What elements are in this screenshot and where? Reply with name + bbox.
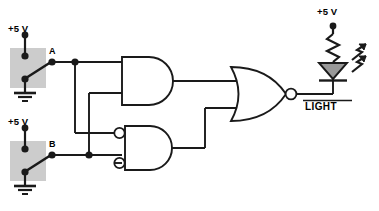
led-supply-label: +5 V [317, 7, 337, 17]
gate-and-inverted-inputs-body[interactable] [125, 126, 172, 170]
switch-b-supply-label: +5 V [8, 117, 28, 127]
switch-a-terminal-top [21, 52, 28, 59]
led-emission-arrows [352, 44, 366, 72]
gate-lower-input-bubble-top [114, 128, 124, 138]
node-b-label: B [49, 140, 56, 149]
resistor-symbol [327, 34, 339, 62]
switch-b-ground-symbol [14, 186, 36, 194]
circuit-diagram-canvas: +5 V +5 V +5 V A B LIGHT [0, 0, 379, 211]
switch-a-supply-label: +5 V [8, 24, 28, 34]
gate-nor-output-bubble [286, 89, 297, 100]
switch-b-terminal-top [21, 145, 28, 152]
gate-and-body[interactable] [122, 57, 173, 105]
gate-nor-body[interactable] [231, 67, 286, 121]
node-a-label: A [49, 47, 56, 56]
switch-a-ground-symbol [14, 93, 36, 101]
led-triangle [319, 63, 347, 79]
light-output-label: LIGHT [305, 102, 337, 112]
